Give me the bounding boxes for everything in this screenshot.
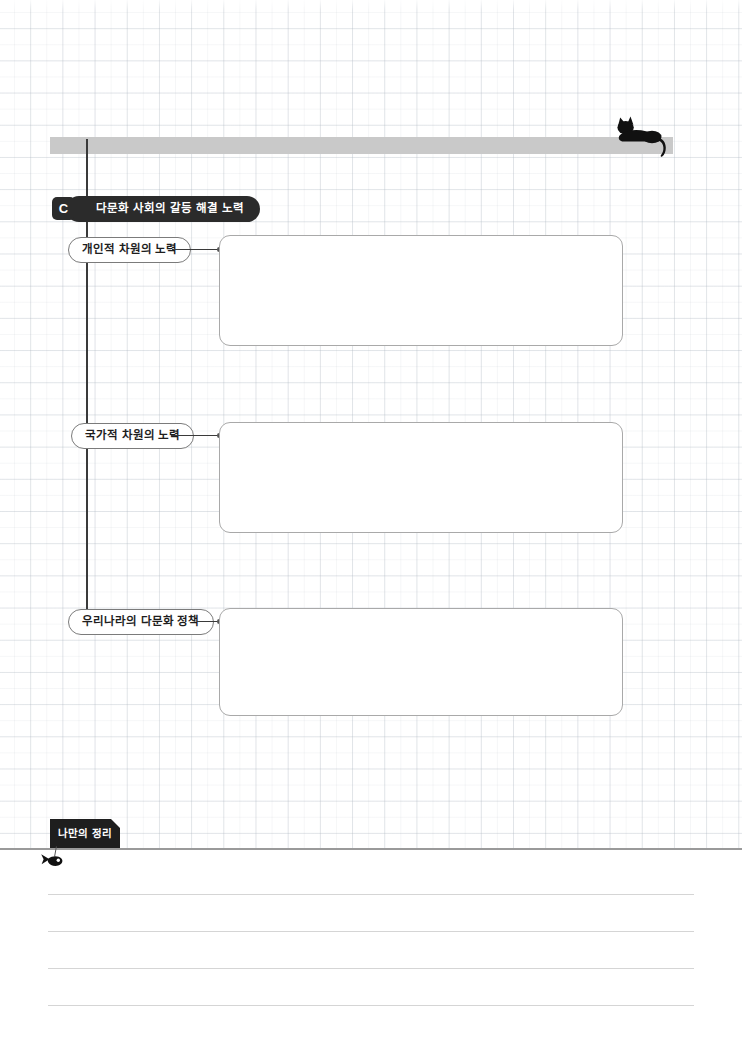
worksheet-page: 다문화 사회의 갈등 해결 노력 C 개인적 차원의 노력 국가적 차원의 노력… — [0, 0, 742, 1044]
branch-label-3-text: 우리나라의 다문화 정책 — [82, 616, 200, 628]
notes-tab-label: 나만의 정리 — [58, 828, 112, 839]
branch-label-3: 우리나라의 다문화 정책 — [68, 609, 214, 635]
answer-box-1[interactable] — [219, 235, 623, 346]
notes-divider-rule — [0, 848, 742, 850]
branch-label-1-text: 개인적 차원의 노력 — [82, 244, 177, 256]
answer-box-3[interactable] — [219, 608, 623, 716]
branch-label-2-text: 국가적 차원의 노력 — [85, 430, 180, 442]
writing-line-4[interactable] — [48, 1005, 694, 1006]
notes-white-area — [0, 849, 742, 1044]
branch-connector-1 — [172, 249, 220, 250]
writing-line-2[interactable] — [48, 931, 694, 932]
answer-box-2[interactable] — [219, 422, 623, 533]
branch-connector-2 — [171, 435, 220, 436]
notes-tab-fold-corner — [111, 819, 120, 828]
section-badge: C — [52, 197, 75, 220]
section-title-text: 다문화 사회의 갈등 해결 노력 — [96, 203, 244, 215]
header-gray-bar — [50, 137, 673, 154]
writing-line-3[interactable] — [48, 968, 694, 969]
fish-silhouette-icon — [38, 846, 72, 876]
section-title-pill: 다문화 사회의 갈등 해결 노력 — [66, 196, 260, 222]
notes-tab: 나만의 정리 — [50, 819, 120, 848]
writing-line-1[interactable] — [48, 894, 694, 895]
cat-silhouette-icon — [608, 108, 672, 160]
